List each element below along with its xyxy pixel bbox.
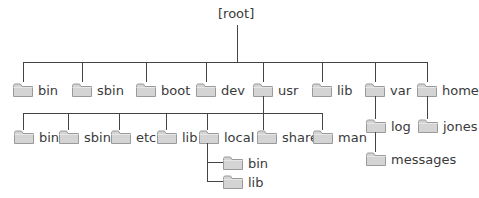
- folder-icon: [111, 130, 131, 144]
- connector-line: [23, 62, 24, 82]
- folder-label: local: [224, 130, 254, 145]
- folder-label: bin: [38, 83, 58, 98]
- folder-icon: [196, 83, 216, 97]
- folder-icon: [313, 130, 333, 144]
- folder-label: home: [442, 83, 479, 98]
- folder-icon: [312, 83, 332, 97]
- folder-dev[interactable]: dev: [196, 81, 245, 99]
- folder-log-messages[interactable]: messages: [366, 150, 456, 168]
- folder-icon: [14, 130, 34, 144]
- connector-line: [427, 62, 428, 82]
- folder-label: sbin: [84, 130, 111, 145]
- folder-label: sbin: [97, 83, 124, 98]
- folder-icon: [418, 119, 438, 133]
- folder-icon: [136, 83, 156, 97]
- usr-stem-line: [263, 96, 264, 114]
- folder-usr-sbin[interactable]: sbin: [59, 128, 111, 146]
- folder-label: dev: [221, 83, 245, 98]
- folder-label: boot: [161, 83, 190, 98]
- folder-icon: [253, 83, 273, 97]
- folder-icon: [13, 83, 33, 97]
- folder-icon: [365, 83, 385, 97]
- folder-label: etc: [136, 130, 156, 145]
- folder-label: messages: [391, 152, 456, 167]
- folder-label: bin: [248, 156, 268, 171]
- home-stem-line: [427, 96, 428, 119]
- folder-var[interactable]: var: [365, 81, 411, 99]
- connector-line: [322, 62, 323, 82]
- connector-line: [375, 62, 376, 82]
- folder-label: lib: [248, 175, 263, 190]
- folder-label: usr: [278, 83, 298, 98]
- folder-label: lib: [337, 83, 352, 98]
- folder-icon: [417, 83, 437, 97]
- folder-usr[interactable]: usr: [253, 81, 298, 99]
- connector-line: [82, 62, 83, 82]
- log-stem-line: [375, 132, 376, 152]
- folder-icon: [223, 156, 243, 170]
- folder-icon: [366, 119, 386, 133]
- folder-icon: [366, 152, 386, 166]
- folder-icon: [157, 130, 177, 144]
- connector-line: [146, 62, 147, 82]
- folder-local-lib[interactable]: lib: [223, 173, 263, 191]
- folder-usr-man[interactable]: man: [313, 128, 367, 146]
- folder-icon: [223, 175, 243, 189]
- folder-label: man: [338, 130, 367, 145]
- folder-bin[interactable]: bin: [13, 81, 58, 99]
- folder-usr-share[interactable]: share: [257, 128, 318, 146]
- folder-var-log[interactable]: log: [366, 117, 411, 135]
- folder-home-jones[interactable]: jones: [418, 117, 478, 135]
- root-stem-line: [237, 25, 238, 63]
- var-stem-line: [375, 96, 376, 119]
- folder-icon: [199, 130, 219, 144]
- connector-line: [207, 162, 224, 163]
- root-label: [root]: [218, 6, 254, 21]
- folder-label: log: [391, 119, 411, 134]
- folder-usr-lib[interactable]: lib: [157, 128, 197, 146]
- connector-line: [207, 181, 224, 182]
- folder-local-bin[interactable]: bin: [223, 154, 268, 172]
- level1-bus-line: [23, 62, 428, 63]
- folder-boot[interactable]: boot: [136, 81, 190, 99]
- folder-label: lib: [182, 130, 197, 145]
- folder-lib[interactable]: lib: [312, 81, 352, 99]
- folder-sbin[interactable]: sbin: [72, 81, 124, 99]
- folder-icon: [59, 130, 79, 144]
- folder-usr-bin[interactable]: bin: [14, 128, 59, 146]
- connector-line: [206, 62, 207, 82]
- folder-icon: [257, 130, 277, 144]
- folder-label: bin: [39, 130, 59, 145]
- folder-label: var: [390, 83, 411, 98]
- folder-icon: [72, 83, 92, 97]
- folder-usr-etc[interactable]: etc: [111, 128, 156, 146]
- folder-label: jones: [443, 119, 478, 134]
- connector-line: [263, 62, 264, 82]
